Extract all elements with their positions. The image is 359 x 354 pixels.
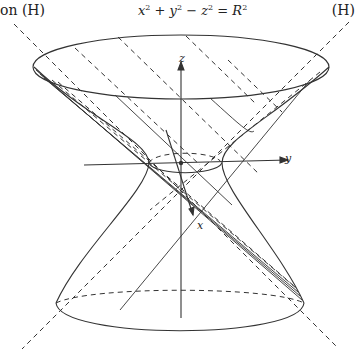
x-axis-label: x <box>197 219 203 232</box>
left-profile <box>34 67 149 303</box>
eq-exp-3: 2 <box>208 3 213 12</box>
bottom-ellipse-back <box>56 290 304 303</box>
x-arrow-icon <box>189 207 194 215</box>
neck-ellipse-front <box>149 163 222 173</box>
ruling-5 <box>210 98 254 132</box>
eq-exp-4: 2 <box>242 3 247 12</box>
ruling-dash-7 <box>228 60 282 112</box>
equation-label: x2 + y2 − z2 = R2 <box>138 3 247 18</box>
eq-y: y <box>170 3 177 18</box>
ruling-dash-5 <box>186 36 256 104</box>
cone-line-right <box>22 22 349 349</box>
y-axis <box>84 160 288 165</box>
z-axis-label: z <box>179 52 185 65</box>
bottom-ellipse-front <box>56 303 304 331</box>
right-profile <box>222 67 329 303</box>
eq-exp-2: 2 <box>177 3 182 12</box>
y-axis-label: y <box>285 152 291 165</box>
asymptote-label-left: on (H) <box>0 2 45 18</box>
hyperboloid-diagram: on (H) (H) x2 + y2 − z2 = R2 z y x <box>0 0 359 354</box>
asymptote-label-right: (H) <box>332 2 355 18</box>
eq-exp-1: 2 <box>145 3 150 12</box>
cone-line-left <box>14 24 336 346</box>
origin-dot <box>179 161 183 165</box>
eq-r: R <box>232 3 242 18</box>
